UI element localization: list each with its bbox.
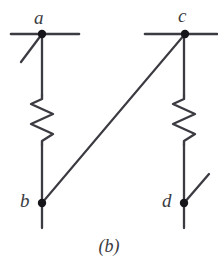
switch-arm-a bbox=[21, 34, 42, 62]
circuit-figure: a c b d (b) bbox=[0, 0, 218, 266]
node-dot-d bbox=[180, 199, 188, 207]
node-label-b: b bbox=[20, 191, 30, 210]
switch-arm-d bbox=[184, 174, 209, 203]
node-label-a: a bbox=[34, 8, 44, 27]
resistor-right bbox=[173, 95, 195, 145]
wire-b-to-c-diagonal bbox=[42, 34, 185, 203]
node-label-d: d bbox=[162, 191, 172, 210]
node-label-c: c bbox=[178, 6, 186, 25]
circuit-schematic-svg bbox=[0, 0, 218, 266]
node-dot-c bbox=[181, 30, 189, 38]
node-dot-b bbox=[38, 199, 46, 207]
figure-caption: (b) bbox=[0, 236, 218, 257]
node-dot-a bbox=[38, 30, 46, 38]
resistor-left bbox=[31, 95, 53, 145]
